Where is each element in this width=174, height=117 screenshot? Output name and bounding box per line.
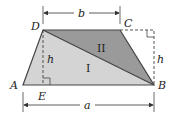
height-left-label: h <box>47 53 54 66</box>
region-1-label: I <box>86 62 90 75</box>
trapezoid-diagram: b a D C A B E h h I II <box>0 0 174 117</box>
vertex-e-label: E <box>37 90 46 103</box>
vertex-c-label: C <box>124 17 133 30</box>
label-a: a <box>84 99 91 112</box>
vertex-a-label: A <box>9 79 18 92</box>
region-2-label: II <box>97 42 106 55</box>
vertex-b-label: B <box>157 79 166 92</box>
label-b: b <box>78 7 85 20</box>
right-angle-top-right <box>147 30 154 37</box>
height-right-label: h <box>157 53 164 66</box>
vertex-d-label: D <box>30 20 40 33</box>
